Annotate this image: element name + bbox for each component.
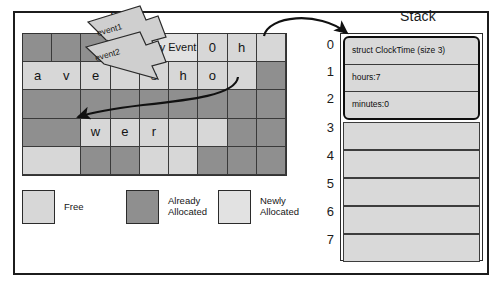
heap-cell-text: v [63,69,70,83]
struct-field-name: minutes: [352,99,384,109]
heap-cell-text: o [209,69,216,83]
heap-cell-r1-c8 [257,62,286,90]
heap-cell-r2-c4 [140,90,169,118]
legend: FreeAlready AllocatedNewly Allocated [22,190,292,234]
heap-cell-r3-c5 [169,119,198,147]
struct-separator [345,91,478,92]
heap-cell-r1-c3 [111,62,140,90]
heap-cell-r4-c5 [169,147,198,175]
heap-cell-r3-c1 [52,119,81,147]
heap-cell-r4-c8 [257,147,286,175]
struct-field-value: 7 [376,72,381,82]
figure-root: Heap Stack Daily Event0haveshower FreeAl… [0,0,503,291]
struct-header-row: struct ClockTime (size 3) [345,45,478,55]
heap-memory-grid: Daily Event0haveshower [22,33,287,176]
heap-cell-r2-c3 [111,90,140,118]
heap-cell-r1-c6: o [198,62,227,90]
heap-cell-r4-c2 [81,147,110,175]
heap-cell-r2-c7 [228,90,257,118]
stack-title: Stack [400,8,436,24]
heap-cell-r4-c1 [52,147,81,175]
stack-index-3: 3 [320,120,334,135]
heap-cell-r1-c5: h [169,62,198,90]
legend-label-newly: Newly Allocated [260,196,299,218]
heap-cell-r3-c0 [23,119,52,147]
heap-cell-r1-c2: e [81,62,110,90]
heap-cell-r2-c5 [169,90,198,118]
heap-cell-r3-c3: e [111,119,140,147]
heap-cell-r1-c4: s [140,62,169,90]
heap-cell-text: Daily Event [141,42,197,54]
stack-struct-box: struct ClockTime (size 3)hours:7minutes:… [343,36,480,120]
legend-label-free: Free [64,202,84,213]
heap-cell-r4-c6 [198,147,227,175]
heap-cell-r2-c8 [257,90,286,118]
heap-cell-r3-c2: w [81,119,110,147]
stack-index-1: 1 [320,64,334,79]
heap-cell-r4-c0 [23,147,52,175]
heap-cell-r4-c7 [228,147,257,175]
stack-slot-5 [343,178,480,206]
heap-cell-text: s [151,69,158,83]
heap-cell-r2-c1 [52,90,81,118]
stack-slot-3 [343,122,480,150]
heap-cell-r3-c4: r [140,119,169,147]
heap-cell-r4-c4 [140,147,169,175]
heap-cell-text: 0 [209,41,216,55]
heap-cell-text: h [180,69,187,83]
legend-swatch-free [22,190,55,224]
legend-label-already: Already Allocated [168,196,207,218]
heap-cell-r1-c0: a [23,62,52,90]
heap-cell-text: e [92,69,99,83]
struct-separator [345,64,478,65]
heap-cell-r1-c7 [228,62,257,90]
stack-index-2: 2 [320,91,334,106]
stack-slot-7 [343,234,480,262]
heap-cell-r0-c5: 0 [198,34,227,62]
struct-field-row: minutes:0 [345,99,478,109]
stack-slot-4 [343,150,480,178]
stack-column: struct ClockTime (size 3)hours:7minutes:… [340,33,483,261]
heap-cell-r2-c2 [81,90,110,118]
heap-cell-r0-c6: h [228,34,257,62]
heap-cell-text: r [152,125,156,139]
heap-cell-text: h [238,41,245,55]
heap-cell-r0-c7 [257,34,286,62]
heap-cell-text: w [91,125,100,139]
struct-header-text: struct ClockTime (size 3) [352,45,445,55]
struct-field-name: hours: [352,72,376,82]
heap-cell-r1-c1: v [52,62,81,90]
heap-cell-text: e [121,125,128,139]
heap-cell-text: a [34,69,41,83]
heap-title: Heap [110,8,144,24]
heap-cell-r0-c2 [81,34,110,62]
legend-swatch-newly [218,190,251,224]
legend-swatch-already [126,190,159,224]
legend-item-free: Free [22,190,84,224]
heap-cell-r2-c0 [23,90,52,118]
stack-index-6: 6 [320,204,334,219]
stack-index-0: 0 [320,37,334,52]
heap-cell-r0-c1 [52,34,81,62]
heap-cell-r0-c4: Daily Event [140,34,198,62]
stack-slot-6 [343,206,480,234]
heap-cell-r3-c8 [257,119,286,147]
heap-cell-r4-c3 [111,147,140,175]
heap-cell-r2-c6 [198,90,227,118]
struct-field-row: hours:7 [345,72,478,82]
heap-cell-r0-c0 [23,34,52,62]
heap-cell-r3-c6 [198,119,227,147]
legend-item-newly: Newly Allocated [218,190,299,224]
stack-index-4: 4 [320,148,334,163]
stack-index-5: 5 [320,176,334,191]
stack-index-7: 7 [320,232,334,247]
legend-item-already: Already Allocated [126,190,207,224]
heap-cell-r3-c7 [228,119,257,147]
struct-field-value: 0 [384,99,389,109]
heap-cell-r0-c3 [111,34,140,62]
